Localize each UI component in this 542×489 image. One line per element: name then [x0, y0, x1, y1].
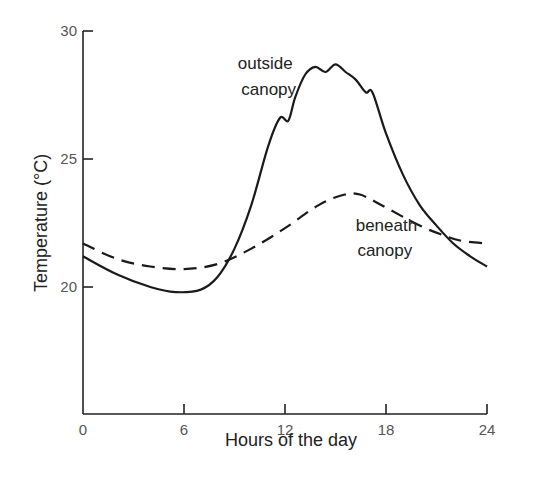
series-label: outside	[238, 54, 293, 73]
series-label: canopy	[241, 80, 296, 99]
y-tick-label: 25	[60, 150, 77, 167]
x-tick-label: 18	[378, 421, 395, 438]
x-tick-label: 24	[479, 421, 496, 438]
beneath-canopy-line	[83, 193, 487, 269]
x-tick-label: 0	[79, 421, 87, 438]
series-label: beneath	[356, 216, 417, 235]
x-tick-label: 6	[180, 421, 188, 438]
temperature-line-chart: 202530 06121824 Hours of the day Tempera…	[0, 0, 542, 489]
y-tick-label: 20	[60, 278, 77, 295]
y-axis-title: Temperature (°C)	[31, 154, 51, 292]
y-axis: 202530	[60, 22, 93, 414]
y-tick-label: 30	[60, 22, 77, 39]
series-label: canopy	[357, 241, 412, 260]
x-axis-title: Hours of the day	[225, 430, 357, 450]
